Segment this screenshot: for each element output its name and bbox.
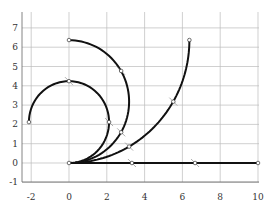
- y-tick-label: 0: [12, 158, 18, 168]
- curve-half-circle: [69, 40, 129, 163]
- y-tick-label: 5: [12, 62, 18, 72]
- x-tick-label: 10: [252, 192, 264, 202]
- x-tick-label: 8: [217, 192, 223, 202]
- end-marker: [67, 38, 71, 42]
- x-tick-label: -2: [27, 192, 36, 202]
- y-axis-tick-labels: -101234567: [9, 23, 18, 187]
- end-marker: [27, 120, 31, 124]
- x-tick-label: 4: [142, 192, 148, 202]
- axes-frame: [22, 12, 259, 182]
- chart: -20246810 -101234567: [0, 0, 276, 211]
- grid-lines: [22, 12, 259, 182]
- end-marker: [188, 38, 192, 42]
- y-tick-label: 2: [12, 119, 18, 129]
- y-tick-label: 1: [12, 139, 18, 149]
- x-tick-label: 6: [180, 192, 186, 202]
- y-tick-label: 6: [12, 42, 18, 52]
- markers: [27, 38, 260, 167]
- y-tick-label: -1: [9, 177, 18, 187]
- y-tick-label: 4: [12, 81, 18, 91]
- y-tick-label: 3: [12, 100, 18, 110]
- end-marker: [256, 161, 260, 165]
- x-axis-tick-labels: -20246810: [27, 192, 264, 202]
- x-tick-label: 0: [66, 192, 72, 202]
- y-tick-label: 7: [12, 23, 18, 33]
- origin-marker: [67, 161, 71, 165]
- tick-marker: [117, 67, 125, 75]
- x-tick-label: 2: [104, 192, 110, 202]
- curves: [29, 40, 258, 163]
